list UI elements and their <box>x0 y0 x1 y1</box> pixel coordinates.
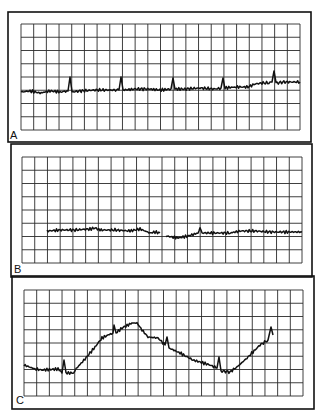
trace-line <box>47 227 160 233</box>
figure-canvas <box>0 0 324 417</box>
panel-label-b: B <box>14 264 21 275</box>
panel-label-c: C <box>16 395 24 406</box>
trace-line <box>166 228 302 239</box>
trace-line <box>24 323 273 375</box>
panel-frame <box>12 276 314 409</box>
figure: A B C <box>0 0 324 417</box>
panel-frame <box>11 144 312 277</box>
panel-b <box>11 144 312 277</box>
panel-label-a: A <box>10 130 17 141</box>
panel-c <box>12 276 314 409</box>
grid <box>21 24 300 130</box>
panel-a <box>8 12 311 142</box>
grid <box>22 157 302 263</box>
